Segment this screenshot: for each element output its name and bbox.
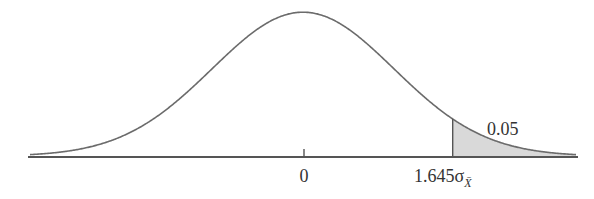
- normal-distribution-chart: 0 1.645σX̄ 0.05: [0, 0, 594, 199]
- tail-area-label: 0.05: [487, 119, 519, 139]
- critical-value-label: 1.645σX̄: [414, 166, 472, 190]
- mean-label: 0: [300, 166, 309, 186]
